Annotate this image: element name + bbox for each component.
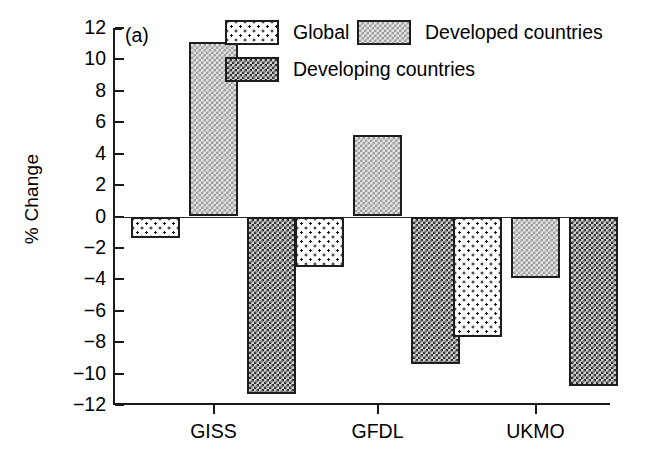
y-axis-tick-label: 0	[60, 207, 106, 227]
y-axis-tick-label: −10	[60, 364, 106, 384]
legend-label: Developing countries	[293, 58, 475, 81]
y-axis-tick-label: 12	[60, 18, 106, 38]
legend-entry: Developing countries	[225, 57, 475, 82]
y-axis-tick-label: 2	[60, 175, 106, 195]
y-axis-tick-label: −12	[60, 395, 106, 415]
chart-legend: GlobalDeveloped countriesDeveloping coun…	[113, 18, 633, 98]
bar	[511, 217, 560, 278]
x-axis-tick-label: GFDL	[351, 420, 403, 443]
y-axis-tick-label: −8	[60, 332, 106, 352]
y-axis-tick	[115, 373, 124, 375]
y-axis-tick-label: 10	[60, 49, 106, 69]
chart-figure: % Change 121086420−2−4−6−8−10−12 GISSGFD…	[0, 0, 647, 468]
y-axis-tick-label: −2	[60, 238, 106, 258]
y-axis-tick	[115, 184, 124, 186]
x-axis-tick-label: GISS	[190, 420, 237, 443]
x-axis-tick	[213, 405, 215, 414]
legend-label: Global	[293, 21, 349, 44]
bar	[353, 135, 402, 217]
bar	[569, 217, 618, 387]
legend-swatch-icon	[357, 20, 411, 45]
y-axis-tick-label: 8	[60, 81, 106, 101]
y-axis-tick	[115, 121, 124, 123]
y-axis-tick-label: 4	[60, 144, 106, 164]
legend-label: Developed countries	[425, 21, 603, 44]
x-axis-tick-label: UKMO	[506, 420, 565, 443]
legend-swatch-icon	[225, 20, 279, 45]
y-axis-tick	[115, 341, 124, 343]
y-axis-tick-label: 6	[60, 112, 106, 132]
x-axis-tick	[377, 405, 379, 414]
bar	[295, 217, 344, 267]
legend-entry: Developed countries	[357, 20, 603, 45]
y-axis-tick	[115, 153, 124, 155]
x-axis-tick	[535, 405, 537, 414]
legend-entry: Global	[225, 20, 349, 45]
y-axis-tick-labels: 121086420−2−4−6−8−10−12	[38, 0, 106, 468]
y-axis-tick	[115, 247, 124, 249]
y-axis-tick	[115, 310, 124, 312]
y-axis-tick	[115, 278, 124, 280]
legend-swatch-icon	[225, 57, 279, 82]
y-axis-tick-label: −6	[60, 301, 106, 321]
bar	[247, 217, 296, 395]
bar	[131, 217, 180, 239]
bar	[453, 217, 502, 338]
y-axis-tick-label: −4	[60, 269, 106, 289]
